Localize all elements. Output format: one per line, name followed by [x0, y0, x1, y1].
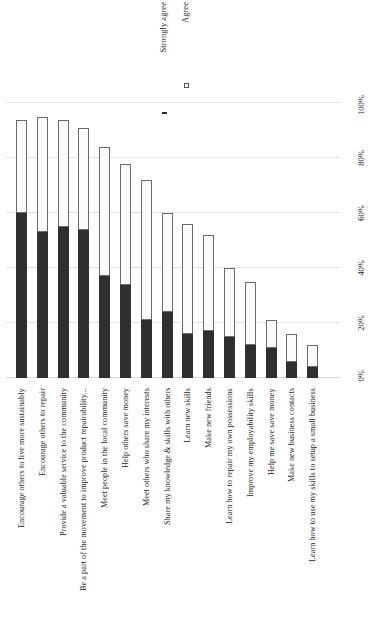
bar-segment-strongly-agree[interactable] [182, 334, 193, 378]
legend-label-agree: Agree [182, 2, 190, 23]
bar-segment-agree[interactable] [99, 147, 110, 276]
bar-segment-agree[interactable] [182, 224, 193, 334]
bar-segment-strongly-agree[interactable] [203, 331, 214, 378]
bar-segment-agree[interactable] [58, 120, 69, 227]
category-label-text: Encourage others to live more sustainabl… [15, 388, 28, 638]
category-label-5: Meet people in the local community [98, 388, 111, 638]
bar-segment-agree[interactable] [141, 180, 152, 320]
category-label-text: Be a part of the movement to improve pro… [77, 388, 90, 638]
category-label-13: Help me save save money [265, 388, 278, 638]
bar-segment-strongly-agree[interactable] [266, 348, 277, 378]
legend-item-agree: Agree [182, 2, 190, 90]
bar-segment-agree[interactable] [16, 120, 27, 214]
category-label-text: Share my knowledge & skills with others [161, 388, 174, 638]
category-label-15: Learn how to use my skills to setup a sm… [306, 388, 319, 638]
chart-legend: Strongly agree Agree [150, 2, 220, 90]
category-label-9: Learn new skills [181, 388, 194, 638]
bar-segment-strongly-agree[interactable] [120, 285, 131, 379]
bar-segment-strongly-agree[interactable] [37, 232, 48, 378]
category-label-text: Learn how to use my skills to setup a sm… [306, 388, 319, 638]
y-tick-60%: 60% [344, 205, 378, 219]
bar-segment-agree[interactable] [266, 320, 277, 348]
legend-swatch-hollow-square-icon [184, 83, 189, 88]
bar-13[interactable] [266, 320, 277, 378]
legend-item-strongly-agree: Strongly agree [160, 2, 168, 90]
bar-segment-strongly-agree[interactable] [78, 230, 89, 379]
category-label-text: Make new friends [202, 388, 215, 638]
bar-3[interactable] [58, 120, 69, 379]
bar-7[interactable] [141, 180, 152, 378]
category-label-8: Share my knowledge & skills with others [161, 388, 174, 638]
category-label-14: Make new business contacts [285, 388, 298, 638]
y-tick-40%: 40% [344, 260, 378, 274]
bar-segment-strongly-agree[interactable] [99, 276, 110, 378]
category-label-text: Learn how to repair my own possessions [223, 388, 236, 638]
bar-series-container [0, 95, 340, 385]
category-label-text: Learn new skills [181, 388, 194, 638]
y-tick-100%: 100% [344, 95, 378, 109]
bar-12[interactable] [245, 282, 256, 378]
legend-label-strongly-agree: Strongly agree [160, 2, 168, 52]
bar-8[interactable] [162, 213, 173, 378]
category-label-text: Help me save save money [265, 388, 278, 638]
category-label-3: Provide a valuable service to the commun… [57, 388, 70, 638]
category-label-text: Meet people in the local community [98, 388, 111, 638]
bar-segment-agree[interactable] [203, 235, 214, 331]
bar-segment-strongly-agree[interactable] [58, 227, 69, 378]
y-tick-20%: 20% [344, 315, 378, 329]
bar-4[interactable] [78, 128, 89, 378]
category-label-text: Meet others who share my interests [140, 388, 153, 638]
category-label-4: Be a part of the movement to improve pro… [77, 388, 90, 638]
bar-segment-agree[interactable] [37, 117, 48, 233]
y-tick-0%: 0% [344, 370, 378, 384]
bar-2[interactable] [37, 117, 48, 378]
bar-segment-agree[interactable] [245, 282, 256, 345]
y-tick-80%: 80% [344, 150, 378, 164]
category-label-text: Encourage others to repair [36, 388, 49, 638]
y-tick-label: 80% [354, 150, 368, 166]
bar-segment-strongly-agree[interactable] [224, 337, 235, 378]
bar-9[interactable] [182, 224, 193, 378]
bar-segment-agree[interactable] [286, 334, 297, 362]
bar-10[interactable] [203, 235, 214, 378]
x-axis-category-labels: Encourage others to live more sustainabl… [0, 388, 345, 640]
category-label-2: Encourage others to repair [36, 388, 49, 638]
category-label-12: Improve my employability skills [244, 388, 257, 638]
bar-5[interactable] [99, 147, 110, 378]
bar-11[interactable] [224, 268, 235, 378]
bar-6[interactable] [120, 164, 131, 379]
bar-14[interactable] [286, 334, 297, 378]
bar-segment-strongly-agree[interactable] [307, 367, 318, 378]
category-label-10: Make new friends [202, 388, 215, 638]
plot-area [0, 95, 340, 385]
bar-segment-agree[interactable] [120, 164, 131, 285]
y-axis-tick-labels: 0%20%40%60%80%100% [344, 95, 378, 395]
category-label-text: Help others save money [119, 388, 132, 638]
y-tick-label: 100% [354, 95, 368, 115]
y-tick-label: 40% [354, 260, 368, 276]
category-label-6: Help others save money [119, 388, 132, 638]
y-tick-label: 60% [354, 205, 368, 221]
y-tick-label: 20% [354, 315, 368, 331]
category-label-text: Make new business contacts [285, 388, 298, 638]
bar-segment-strongly-agree[interactable] [141, 320, 152, 378]
category-label-7: Meet others who share my interests [140, 388, 153, 638]
category-label-11: Learn how to repair my own possessions [223, 388, 236, 638]
category-label-text: Provide a valuable service to the commun… [57, 388, 70, 638]
bar-segment-agree[interactable] [162, 213, 173, 312]
bar-segment-agree[interactable] [224, 268, 235, 337]
category-label-1: Encourage others to live more sustainabl… [15, 388, 28, 638]
bar-segment-strongly-agree[interactable] [16, 213, 27, 378]
bar-15[interactable] [307, 345, 318, 378]
bar-1[interactable] [16, 120, 27, 379]
bar-segment-agree[interactable] [78, 128, 89, 230]
y-tick-label: 0% [354, 370, 368, 381]
bar-segment-agree[interactable] [307, 345, 318, 367]
stacked-bar-chart: Strongly agree Agree 0%20%40%60%80%100% … [0, 0, 378, 642]
category-label-text: Improve my employability skills [244, 388, 257, 638]
bar-segment-strongly-agree[interactable] [245, 345, 256, 378]
bar-segment-strongly-agree[interactable] [162, 312, 173, 378]
bar-segment-strongly-agree[interactable] [286, 362, 297, 379]
